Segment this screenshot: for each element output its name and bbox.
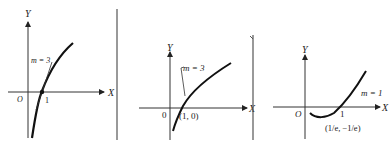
panel-a-y-label: Y [25, 8, 32, 19]
panel-a-x-label: X [107, 87, 115, 98]
panel-c-curve [310, 71, 366, 117]
panel-b: Y X 0 (1, 0) m = 3 [139, 42, 256, 140]
panel-a-tick-label: 1 [45, 96, 49, 105]
panel-c-origin-label: O [295, 109, 302, 119]
panel-c-slope-label: m = 1 [361, 88, 383, 98]
panel-c: Y X O 1 m = 1 (1/e, −1/e) [273, 44, 389, 139]
panel-b-y-label: Y [167, 42, 174, 53]
panel-c-point-label: (1/e, −1/e) [325, 123, 361, 133]
panel-b-slope-label: m = 3 [183, 63, 205, 73]
panel-a-tangent-line [36, 62, 52, 110]
panel-a-slope-label: m = 3 [31, 56, 50, 65]
panel-a-point [40, 90, 44, 94]
panel-b-origin-label: 0 [162, 110, 167, 120]
panel-c-tick-label: 1 [340, 109, 345, 119]
panel-c-x-label: X [381, 102, 389, 113]
panel-b-x-label: X [248, 103, 256, 114]
panel-a-origin-label: O [17, 95, 23, 104]
panel-a: Y X O 1 m = 3 [8, 8, 115, 138]
figure-canvas: Y X O 1 m = 3 Y X 0 (1, 0) m = 3 Y X O 1… [0, 0, 390, 153]
panel-c-y-label: Y [302, 44, 309, 55]
panel-b-point-label: (1, 0) [179, 111, 199, 121]
